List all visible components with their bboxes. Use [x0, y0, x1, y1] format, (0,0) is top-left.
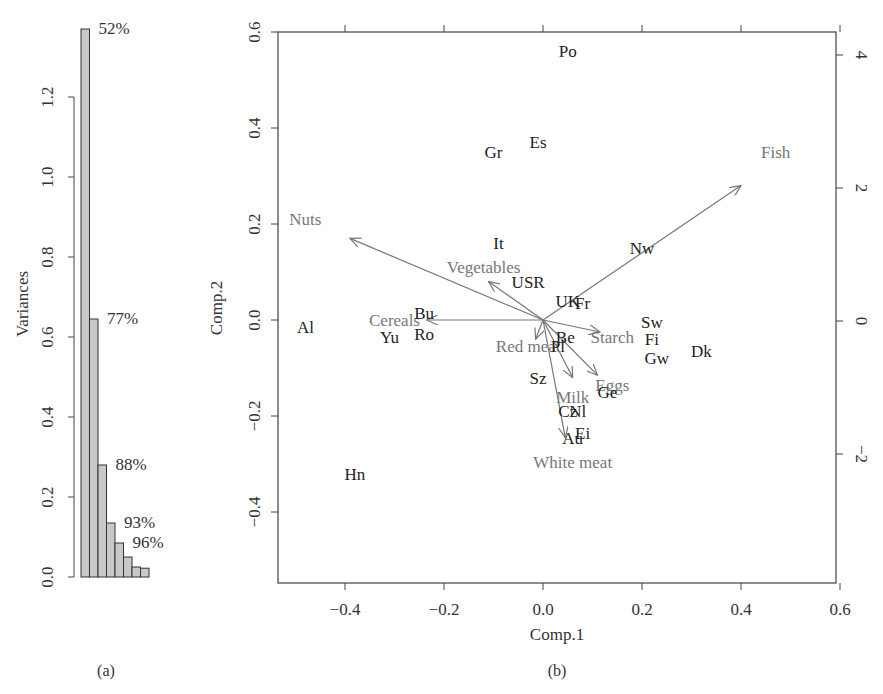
bar — [141, 568, 150, 577]
figure: Variances 0.00.20.40.60.81.01.2 52%77%88… — [0, 0, 883, 694]
country-label: Ro — [414, 325, 434, 344]
country-label: Bu — [414, 304, 434, 323]
y-tick-label: 0.0 — [245, 309, 264, 330]
y-tick-label: 1.2 — [38, 86, 57, 107]
y-tick-label: −0.2 — [245, 401, 264, 432]
cumulative-percent-labels: 52%77%88%93%96% — [99, 19, 164, 552]
country-label: Pl — [551, 337, 565, 356]
country-label: Hn — [345, 465, 366, 484]
right-tick-label: 0 — [852, 317, 871, 326]
country-label: It — [493, 234, 504, 253]
country-label: Fi — [645, 330, 659, 349]
percent-label: 52% — [99, 19, 130, 38]
percent-label: 77% — [107, 309, 138, 328]
country-label: Yu — [380, 328, 399, 347]
country-label: Gr — [485, 143, 503, 162]
y-tick-label: 0.6 — [38, 326, 57, 347]
y-tick-label: 0.4 — [38, 406, 57, 428]
bar — [124, 557, 133, 577]
x-tick-label: 0.2 — [631, 600, 652, 619]
y-axis-b: −0.4−0.20.00.20.40.6 — [245, 21, 278, 527]
variable-label: White meat — [533, 453, 612, 472]
right-tick-label: 4 — [852, 51, 871, 60]
y-axis-title-b: Comp.2 — [207, 281, 226, 335]
x-tick-label: −0.4 — [330, 600, 361, 619]
bar — [107, 523, 116, 577]
country-label: Au — [562, 429, 583, 448]
x-tick-label: 0.0 — [532, 600, 553, 619]
x-tick-label: 0.6 — [829, 600, 850, 619]
percent-label: 88% — [116, 455, 147, 474]
loading-arrows: FishNutsVegetablesCerealsStarchRed meatE… — [289, 143, 790, 472]
y-tick-label: 0.2 — [38, 486, 57, 507]
percent-label: 96% — [133, 533, 164, 552]
x-axis-b: −0.4−0.20.00.20.40.6 — [330, 583, 851, 619]
biplot: −0.4−0.20.00.20.40.6 −0.4−0.20.00.20.40.… — [207, 21, 871, 680]
y-tick-label: 0.2 — [245, 213, 264, 234]
bar — [98, 465, 107, 577]
y-axis-a: 0.00.20.40.60.81.01.2 — [38, 86, 74, 587]
x-tick-label: 0.4 — [730, 600, 752, 619]
bars — [81, 29, 149, 577]
y-tick-label: 0.0 — [38, 566, 57, 587]
y-axis-title-a: Variances — [13, 271, 32, 337]
country-label: Sz — [530, 369, 547, 388]
x-tick-label: −0.2 — [429, 600, 460, 619]
country-label: Es — [530, 133, 547, 152]
bar — [115, 543, 124, 577]
x-axis-title-b: Comp.1 — [530, 625, 584, 644]
y-tick-label: 0.4 — [245, 117, 264, 139]
variable-label: Starch — [591, 328, 635, 347]
panel-label-b: (b) — [548, 662, 567, 680]
bar — [132, 567, 141, 577]
country-label: Ge — [597, 383, 617, 402]
variable-label: Vegetables — [447, 258, 521, 277]
loading-arrow — [536, 320, 543, 339]
right-axis-b: −2024 — [836, 51, 871, 463]
panel-label-a: (a) — [97, 662, 115, 680]
country-label: Po — [559, 42, 577, 61]
country-label: Fr — [575, 294, 590, 313]
country-label: Dk — [691, 342, 712, 361]
y-tick-label: 1.0 — [38, 166, 57, 187]
bar — [81, 29, 90, 577]
bar — [90, 319, 99, 577]
y-tick-label: 0.6 — [245, 21, 264, 42]
country-label: Nw — [630, 239, 655, 258]
percent-label: 93% — [124, 513, 155, 532]
country-label: USR — [512, 273, 546, 292]
country-label: Gw — [645, 349, 670, 368]
right-tick-label: 2 — [852, 184, 871, 193]
country-label: Nl — [569, 402, 586, 421]
variable-label: Nuts — [289, 210, 321, 229]
scree-plot: Variances 0.00.20.40.60.81.01.2 52%77%88… — [13, 19, 164, 680]
right-tick-label: −2 — [852, 445, 871, 463]
variable-label: Fish — [761, 143, 791, 162]
country-label: Al — [297, 318, 314, 337]
y-tick-label: −0.4 — [245, 496, 264, 527]
top-axis-b — [345, 25, 840, 32]
y-tick-label: 0.8 — [38, 246, 57, 267]
